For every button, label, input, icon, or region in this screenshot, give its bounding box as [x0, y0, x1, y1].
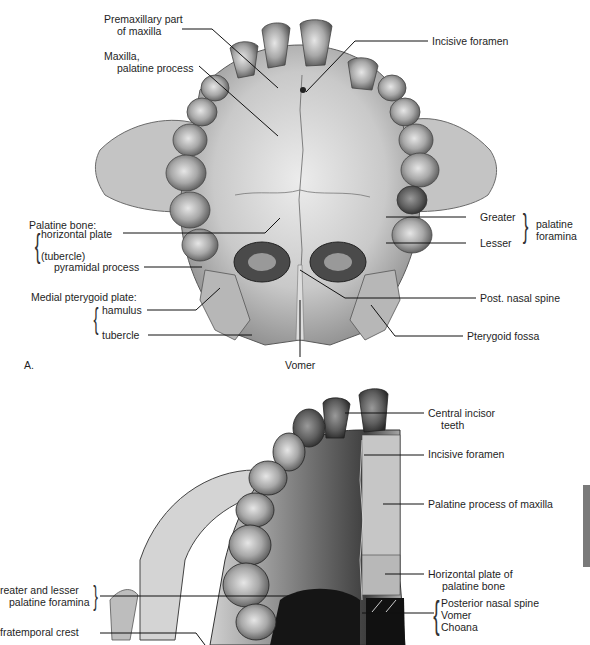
brace-palatine-foramina: } — [523, 208, 529, 242]
label-pterygoid-fossa: Pterygoid fossa — [467, 330, 539, 343]
label-palatine-bone-b: palatine bone — [442, 580, 505, 593]
label-hamulus: hamulus — [102, 304, 142, 317]
brace-greater-lesser: } — [93, 582, 98, 610]
label-maxilla-palatine-process: palatine process — [117, 62, 193, 75]
brace-medial-pterygoid: { — [94, 304, 99, 334]
label-incisive-foramen-b: Incisive foramen — [428, 448, 504, 461]
label-premaxillary-part-line2: of maxilla — [117, 25, 161, 38]
brace-nasal: { — [433, 596, 439, 634]
label-foramina: foramina — [536, 230, 577, 243]
label-post-nasal-spine: Post. nasal spine — [480, 292, 560, 305]
label-greater: Greater — [480, 211, 516, 224]
label-central-incisor-teeth: teeth — [441, 419, 464, 432]
label-lesser: Lesser — [480, 237, 512, 250]
panel-label-a: A. — [24, 359, 34, 372]
label-incisive-foramen-a: Incisive foramen — [432, 35, 508, 48]
figure-b-drawing — [110, 389, 405, 645]
label-medial-pterygoid-plate: Medial pterygoid plate: — [31, 291, 137, 304]
label-palatine-foramina-b: palatine foramina — [9, 596, 90, 609]
label-vomer-a: Vomer — [285, 359, 315, 372]
label-horizontal-plate: horizontal plate — [41, 228, 112, 241]
label-choana: Choana — [441, 621, 478, 634]
label-infratemporal-crest: fratemporal crest — [0, 626, 79, 639]
chapter-thumb-tab — [583, 485, 590, 567]
brace-palatine-bone: { — [35, 228, 41, 262]
label-tubercle: tubercle — [102, 329, 139, 342]
label-pyramidal-process: pyramidal process — [54, 261, 139, 274]
label-palatine-process-of-maxilla: Palatine process of maxilla — [428, 498, 553, 511]
anatomy-illustrations — [0, 0, 590, 645]
